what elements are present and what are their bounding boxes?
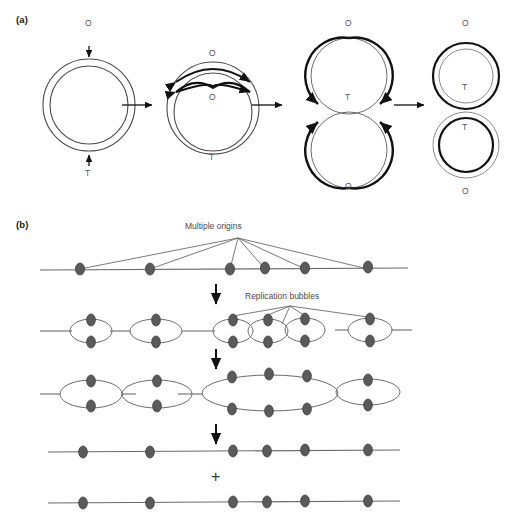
stage2-terminus-label: T (209, 152, 214, 162)
row-linear-dna-with-origins (40, 261, 408, 275)
replication-figure: (a) (0, 0, 515, 513)
stage2-origin-inner-label: O (209, 92, 216, 102)
stage-two-daughter-circles (433, 43, 499, 178)
stage4-terminus-bottom-label: T (462, 122, 467, 132)
multiple-origins-callout-label: Multiple origins (185, 221, 242, 231)
row-daughter-strand-top (48, 444, 400, 458)
stage2-origin-outer-label: O (209, 48, 216, 58)
stage3-terminus-top-label: T (345, 92, 350, 102)
stage1-origin-label: O (85, 18, 92, 28)
panel-b-label: (b) (16, 219, 29, 230)
stage3-origin-bottom-label: O (345, 181, 352, 191)
stage3-origin-top-label: O (345, 18, 352, 28)
stage-late-theta (305, 38, 393, 189)
stage4-origin-bottom-label: O (462, 186, 469, 196)
stage-theta-structure (167, 62, 259, 154)
stage1-terminus-label: T (85, 168, 90, 178)
stage-unreplicated-circle (43, 46, 135, 166)
multiple-origins-callout-lines (80, 238, 368, 269)
replication-bubbles-callout-label: Replication bubbles (245, 291, 319, 301)
row-small-replication-bubbles (40, 313, 412, 348)
figure-vector-layer (0, 0, 515, 513)
stage4-terminus-top-label: T (462, 82, 467, 92)
replication-bubbles-callout-lines (233, 306, 368, 324)
row-merged-growing-bubbles (40, 368, 400, 417)
plus-separator: + (211, 469, 220, 485)
stage4-origin-top-label: O (462, 18, 469, 28)
row-daughter-strand-bottom (48, 495, 400, 509)
